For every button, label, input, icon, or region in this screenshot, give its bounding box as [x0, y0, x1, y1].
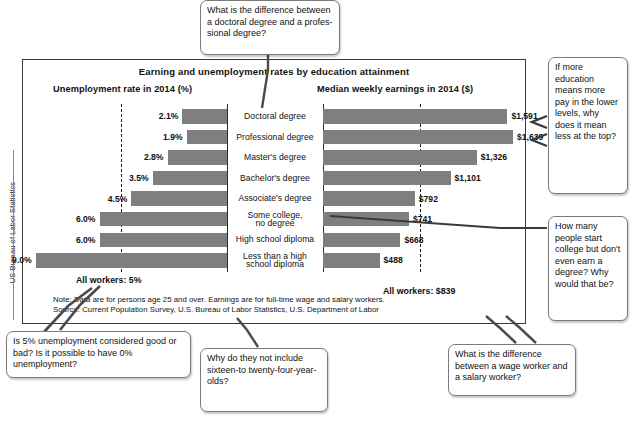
- earnings-cell: $1,326: [323, 147, 525, 168]
- earnings-value-label: $488: [384, 255, 403, 265]
- callout-age-range[interactable]: Why do they not include sixteen-to twent…: [200, 348, 328, 412]
- category-label: Less than a highschool diploma: [243, 252, 307, 270]
- chart-row: 2.1%Doctoral degree$1,591: [23, 106, 525, 127]
- earnings-cell: $668: [323, 230, 525, 251]
- chart-row: 6.0%Some college,no degree$741: [23, 209, 525, 230]
- chart-row: 9.0%Less than a highschool diploma$488: [23, 250, 525, 271]
- callout-doctoral-vs-professional[interactable]: What is the difference between a doctora…: [200, 0, 340, 55]
- callout-wage-vs-salary[interactable]: What is the difference between a wage wo…: [448, 344, 576, 396]
- screenshot-canvas: US Bureau of Labor Statistics Earning an…: [0, 0, 637, 428]
- category-cell: Some college,no degree: [227, 209, 323, 230]
- unemployment-bar: [100, 212, 228, 227]
- unemployment-bar: [187, 130, 227, 145]
- all-workers-unemployment-label: All workers: 5%: [76, 275, 142, 285]
- note-line-data: Note: Data are for persons age 25 and ov…: [53, 295, 503, 305]
- unemployment-cell: 2.1%: [23, 106, 227, 127]
- unemployment-bar: [153, 171, 227, 186]
- unemployment-cell: 6.0%: [23, 230, 227, 251]
- publisher-credit: US Bureau of Labor Statistics: [0, 150, 16, 320]
- category-cell: High school diploma: [227, 230, 323, 251]
- unemployment-bar: [182, 109, 227, 124]
- category-cell: Master's degree: [227, 147, 323, 168]
- unemployment-value-label: 1.9%: [163, 132, 183, 142]
- chart-row: 3.5%Bachelor's degree$1,101: [23, 168, 525, 189]
- panel-header-unemployment: Unemployment rate in 2014 (%): [53, 84, 192, 94]
- category-label: Associate's degree: [238, 194, 311, 203]
- category-label: Bachelor's degree: [240, 174, 310, 183]
- earnings-value-label: $792: [419, 194, 438, 204]
- unemployment-cell: 4.5%: [23, 188, 227, 209]
- chart-note: Note: Data are for persons age 25 and ov…: [53, 295, 503, 316]
- category-cell: Bachelor's degree: [227, 168, 323, 189]
- chart-row: 4.5%Associate's degree$792: [23, 188, 525, 209]
- earnings-bar: [323, 253, 380, 268]
- earnings-bar: [323, 233, 400, 248]
- unemployment-value-label: 4.5%: [108, 194, 128, 204]
- earnings-value-label: $1,639: [517, 132, 543, 142]
- earnings-bar: [323, 109, 507, 124]
- panel-header-earnings: Median weekly earnings in 2014 ($): [317, 84, 473, 94]
- earnings-cell: $488: [323, 250, 525, 271]
- callout-college-no-degree[interactable]: How many people start college but don't …: [548, 216, 628, 321]
- unemployment-cell: 1.9%: [23, 127, 227, 148]
- chart-rows: 2.1%Doctoral degree$1,5911.9%Professiona…: [23, 106, 525, 271]
- unemployment-cell: 6.0%: [23, 209, 227, 230]
- earnings-cell: $741: [323, 209, 525, 230]
- category-label: Professional degree: [236, 133, 313, 142]
- unemployment-value-label: 6.0%: [76, 214, 96, 224]
- unemployment-bar: [100, 233, 228, 248]
- unemployment-value-label: 3.5%: [129, 173, 149, 183]
- earnings-value-label: $1,101: [455, 173, 481, 183]
- unemployment-cell: 9.0%: [23, 250, 227, 271]
- earnings-cell: $792: [323, 188, 525, 209]
- earnings-cell: $1,591: [323, 106, 525, 127]
- unemployment-value-label: 9.0%: [12, 255, 32, 265]
- category-cell: Doctoral degree: [227, 106, 323, 127]
- callout-more-education-more-pay[interactable]: If more education means more pay in the …: [548, 57, 628, 194]
- chart-row: 6.0%High school diploma$668: [23, 230, 525, 251]
- earnings-bar: [323, 171, 451, 186]
- unemployment-cell: 3.5%: [23, 168, 227, 189]
- chart-figure: Earning and unemployment rates by educat…: [22, 59, 526, 324]
- unemployment-bar: [36, 253, 227, 268]
- unemployment-cell: 2.8%: [23, 147, 227, 168]
- category-cell: Professional degree: [227, 127, 323, 148]
- unemployment-bar: [131, 191, 227, 206]
- earnings-bar: [323, 191, 415, 206]
- earnings-cell: $1,101: [323, 168, 525, 189]
- note-line-source: Source: Current Population Survey, U.S. …: [53, 305, 503, 315]
- earnings-value-label: $668: [404, 235, 423, 245]
- credit-divider: [13, 150, 14, 320]
- unemployment-bar: [168, 150, 228, 165]
- earnings-bar: [323, 212, 409, 227]
- earnings-bar: [323, 150, 477, 165]
- earnings-cell: $1,639: [323, 127, 525, 148]
- earnings-value-label: $1,326: [481, 152, 507, 162]
- unemployment-value-label: 2.8%: [144, 152, 164, 162]
- earnings-value-label: $1,591: [511, 111, 537, 121]
- unemployment-value-label: 2.1%: [159, 111, 179, 121]
- category-label: Some college,no degree: [247, 211, 302, 229]
- category-label: Doctoral degree: [244, 112, 306, 121]
- callout-five-percent-unemployment[interactable]: Is 5% unemployment considered good or ba…: [6, 331, 191, 378]
- chart-title: Earning and unemployment rates by educat…: [23, 66, 525, 77]
- chart-row: 2.8%Master's degree$1,326: [23, 147, 525, 168]
- category-cell: Less than a highschool diploma: [227, 250, 323, 271]
- publisher-credit-label: US Bureau of Labor Statistics: [8, 148, 17, 318]
- earnings-value-label: $741: [413, 214, 432, 224]
- category-label: High school diploma: [236, 235, 314, 244]
- category-label: Master's degree: [244, 153, 306, 162]
- earnings-bar: [323, 130, 513, 145]
- category-cell: Associate's degree: [227, 188, 323, 209]
- chart-row: 1.9%Professional degree$1,639: [23, 127, 525, 148]
- unemployment-value-label: 6.0%: [76, 235, 96, 245]
